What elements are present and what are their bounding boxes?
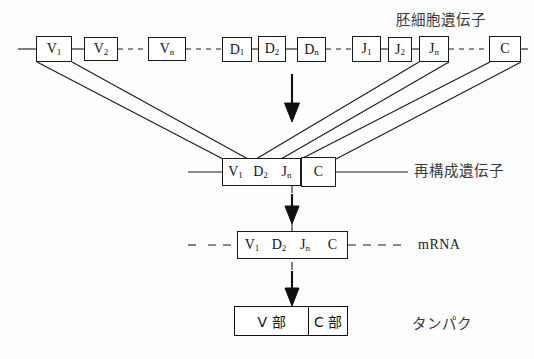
segment-subscript: n xyxy=(170,48,175,57)
rearranged-segment-d2[interactable]: D2 xyxy=(248,158,274,186)
rearranged-segment-v1[interactable]: V1 xyxy=(222,158,249,186)
segment-base: D xyxy=(253,165,263,179)
mrna-segment-c[interactable]: C xyxy=(318,231,348,259)
segment-subscript: 2 xyxy=(263,171,268,180)
segment-subscript: 1 xyxy=(240,48,245,57)
mrna-segment-v1[interactable]: V1 xyxy=(237,231,267,259)
segment-subscript: 2 xyxy=(282,244,287,253)
rearranged-segment-c[interactable]: C xyxy=(301,157,336,187)
recomb-line-v1-left xyxy=(37,62,223,159)
segment-subscript: 2 xyxy=(104,48,109,57)
segment-base: D xyxy=(272,238,282,252)
arrow-recombination xyxy=(285,74,300,122)
segment-subscript: n xyxy=(314,48,319,57)
germline-row-label: 胚細胞遺伝子 xyxy=(396,8,486,29)
protein-c-region[interactable]: C 部 xyxy=(309,307,347,335)
diagram-canvas: V1 V2 Vn D1 D2 Dn J1 J2 Jn C 胚細胞遺伝子 V1 D… xyxy=(0,0,534,359)
segment-subscript: n xyxy=(434,48,439,57)
germline-segment-j2[interactable]: J2 xyxy=(388,37,412,62)
segment-subscript: n xyxy=(287,171,292,180)
segment-subscript: n xyxy=(305,244,310,253)
recomb-line-jn-right xyxy=(281,62,449,159)
germline-segment-jn[interactable]: Jn xyxy=(419,36,449,62)
germline-segment-v1[interactable]: V1 xyxy=(36,36,72,62)
germline-segment-c[interactable]: C xyxy=(489,36,521,62)
mrna-row-label: mRNA xyxy=(418,237,460,253)
rearranged-segment-jn[interactable]: Jn xyxy=(273,158,301,186)
recomb-line-c-right xyxy=(336,62,521,159)
protein-row-label: タンパク xyxy=(412,312,472,333)
germline-segment-v2[interactable]: V2 xyxy=(84,37,118,61)
segment-base: V xyxy=(160,42,170,56)
segment-subscript: 1 xyxy=(255,244,260,253)
segment-subscript: 1 xyxy=(238,171,243,180)
segment-base: V xyxy=(47,42,57,56)
mrna-segment-d2[interactable]: D2 xyxy=(266,231,293,259)
segment-subscript: 2 xyxy=(275,48,280,57)
germline-segment-dn[interactable]: Dn xyxy=(297,37,326,62)
segment-subscript: 2 xyxy=(400,48,405,57)
segment-base: C xyxy=(500,42,509,56)
rearranged-row-label: 再構成遺伝子 xyxy=(414,159,504,180)
protein-box[interactable]: V 部 C 部 xyxy=(234,306,348,336)
germline-segment-d2[interactable]: D2 xyxy=(258,36,286,62)
segment-subscript: 1 xyxy=(57,48,62,57)
germline-segment-d1[interactable]: D1 xyxy=(222,37,252,62)
segment-base: V xyxy=(228,165,238,179)
segment-base: C xyxy=(314,165,323,179)
arrow-transcription xyxy=(285,194,299,224)
segment-base: D xyxy=(230,43,240,57)
germline-segment-vn[interactable]: Vn xyxy=(148,37,186,61)
segment-base: C xyxy=(328,238,337,252)
segment-base: D xyxy=(304,43,314,57)
protein-v-region[interactable]: V 部 xyxy=(235,307,309,335)
germline-segment-j1[interactable]: J1 xyxy=(352,36,381,62)
arrow-translation xyxy=(285,271,299,306)
segment-subscript: 1 xyxy=(367,48,372,57)
segment-base: D xyxy=(265,42,275,56)
recomb-line-v1-right xyxy=(72,62,248,159)
segment-base: V xyxy=(94,42,104,56)
mrna-segment-jn[interactable]: Jn xyxy=(292,231,319,259)
segment-base: V xyxy=(245,238,255,252)
